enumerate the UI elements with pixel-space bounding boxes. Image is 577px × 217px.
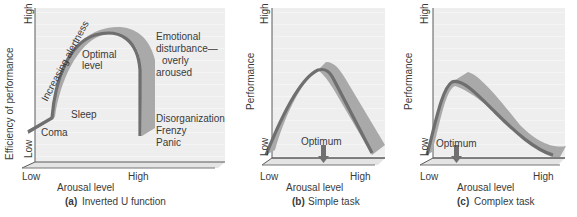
- y-high-label: High: [23, 3, 34, 24]
- annotation-coma: Coma: [41, 127, 68, 138]
- x-high-label: High: [128, 171, 149, 182]
- x-axis-label: Arousal level: [457, 182, 514, 193]
- y-high-label: High: [259, 3, 270, 24]
- caption-text: Simple task: [308, 196, 361, 207]
- x-axis-label: Arousal level: [286, 182, 343, 193]
- y-axis-label: Performance: [245, 52, 256, 110]
- annotation-panic: Panic: [156, 137, 181, 148]
- x-low-label: Low: [420, 171, 439, 182]
- x-axis-label: Arousal level: [57, 182, 114, 193]
- y-axis-label: Performance: [403, 52, 414, 110]
- svg-text:disturbance—: disturbance—: [156, 43, 218, 54]
- x-low-label: Low: [22, 171, 41, 182]
- annotation-frenzy: Frenzy: [156, 125, 187, 136]
- annotation-emotional: Emotional: [156, 31, 200, 42]
- caption-text: Inverted U function: [82, 196, 166, 207]
- caption-letter: (c): [457, 196, 469, 207]
- x-high-label: High: [350, 171, 371, 182]
- caption-text: Complex task: [474, 196, 536, 207]
- svg-text:overly: overly: [162, 55, 189, 66]
- optimum-label: Optimum: [301, 136, 342, 147]
- caption-letter: (a): [65, 196, 77, 207]
- y-axis-label: Efficiency of performance: [4, 47, 15, 160]
- y-high-label: High: [419, 3, 430, 24]
- panel-a-inverted-u: Efficiency of performance High Low Low H…: [4, 3, 225, 207]
- x-low-label: Low: [260, 171, 279, 182]
- x-high-label: High: [533, 171, 554, 182]
- svg-text:level: level: [82, 60, 103, 71]
- figure: Efficiency of performance High Low Low H…: [0, 0, 577, 217]
- annotation-disorganization: Disorganization: [156, 113, 225, 124]
- panel-b-simple-task: Optimum Performance High Low Low High Ar…: [245, 3, 385, 207]
- y-low-label: Low: [419, 137, 430, 156]
- y-low-label: Low: [259, 137, 270, 156]
- annotation-sleep: Sleep: [71, 109, 97, 120]
- annotation-optimal: Optimal: [82, 49, 116, 60]
- y-low-label: Low: [23, 139, 34, 158]
- panel-c-complex-task: Optimum Performance High Low Low High Ar…: [403, 3, 566, 207]
- optimum-label: Optimum: [436, 138, 477, 149]
- caption-letter: (b): [292, 196, 305, 207]
- svg-text:aroused: aroused: [156, 67, 192, 78]
